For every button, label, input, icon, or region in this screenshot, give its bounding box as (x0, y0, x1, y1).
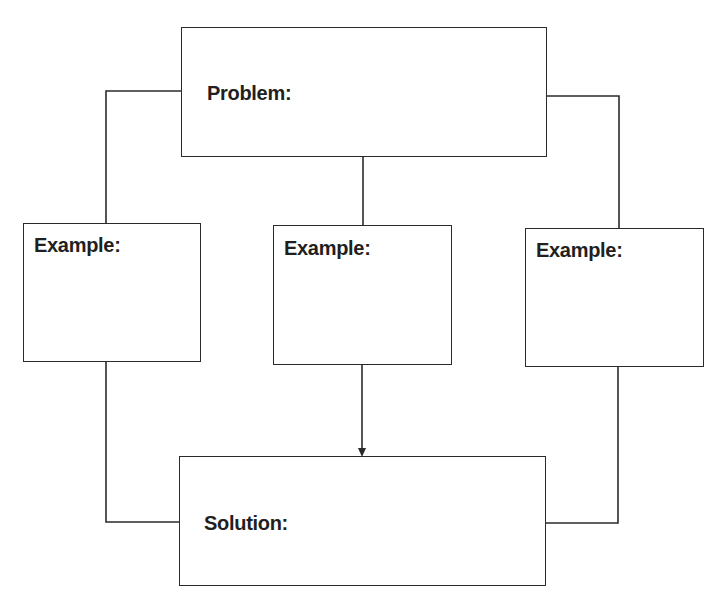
connector-problem-to-example-right (546, 96, 619, 228)
example-label-middle: Example: (284, 237, 371, 260)
connector-example-left-to-solution (106, 362, 180, 522)
connector-problem-to-example-left (106, 91, 182, 223)
problem-label: Problem: (207, 82, 291, 105)
example-label-left: Example: (34, 234, 121, 257)
connector-example-right-to-solution (544, 367, 618, 523)
example-label-right: Example: (536, 239, 623, 262)
solution-label: Solution: (204, 512, 288, 535)
